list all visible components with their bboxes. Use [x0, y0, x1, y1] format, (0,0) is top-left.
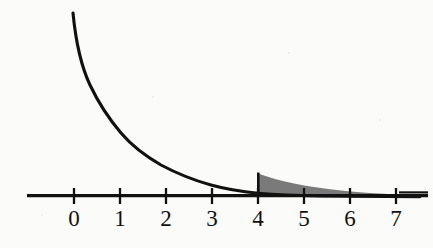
axis-tick-label-2: 2	[151, 207, 181, 230]
axis-tick-label-3: 3	[197, 207, 227, 230]
axis-tick-label-7: 7	[381, 207, 411, 230]
shaded-area-under-curve	[258, 174, 399, 195]
decay-curve	[73, 13, 420, 197]
axis-tick-label-1: 1	[105, 207, 135, 230]
axis-tick-label-4: 4	[243, 207, 273, 230]
figure-root: 0 1 2 3 4 5 6 7	[0, 0, 433, 248]
axis-tick-label-0: 0	[59, 207, 89, 230]
axis-tick-label-5: 5	[289, 207, 319, 230]
axis-tick-label-6: 6	[335, 207, 365, 230]
